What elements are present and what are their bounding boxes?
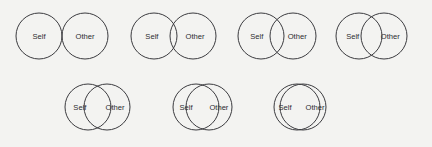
ios-item-4-self-label: Self — [346, 32, 360, 41]
ios-item-5[interactable]: SelfOther — [63, 82, 132, 132]
ios-item-4[interactable]: SelfOther — [334, 11, 409, 61]
ios-item-7[interactable]: SelfOther — [272, 82, 328, 132]
ios-item-7-other-label: Other — [306, 103, 325, 112]
ios-item-2-venn: SelfOther — [129, 11, 218, 61]
ios-scale-figure: SelfOtherSelfOtherSelfOtherSelfOtherSelf… — [0, 0, 432, 147]
ios-item-7-venn: SelfOther — [272, 82, 328, 132]
ios-item-4-other-label: Other — [381, 32, 400, 41]
ios-item-3-venn: SelfOther — [236, 11, 318, 61]
ios-item-3-other-label: Other — [288, 32, 307, 41]
ios-item-5-other-label: Other — [106, 103, 125, 112]
ios-item-5-self-label: Self — [73, 103, 87, 112]
ios-item-1[interactable]: SelfOther — [14, 11, 110, 61]
ios-item-1-venn: SelfOther — [14, 11, 110, 61]
ios-item-5-venn: SelfOther — [63, 82, 132, 132]
ios-item-4-venn: SelfOther — [334, 11, 409, 61]
ios-item-3-self-label: Self — [250, 32, 264, 41]
ios-item-2-other-label: Other — [186, 32, 205, 41]
ios-item-6-other-label: Other — [209, 103, 228, 112]
ios-item-1-self-label: Self — [32, 32, 46, 41]
ios-item-2-self-label: Self — [145, 32, 159, 41]
ios-item-6-self-label: Self — [180, 103, 194, 112]
ios-item-6[interactable]: SelfOther — [171, 82, 234, 132]
ios-item-5-self-circle — [65, 84, 111, 130]
ios-item-7-self-label: Self — [278, 103, 292, 112]
ios-item-6-venn: SelfOther — [171, 82, 234, 132]
ios-item-3[interactable]: SelfOther — [236, 11, 318, 61]
ios-item-2[interactable]: SelfOther — [129, 11, 218, 61]
ios-item-1-other-label: Other — [76, 32, 95, 41]
